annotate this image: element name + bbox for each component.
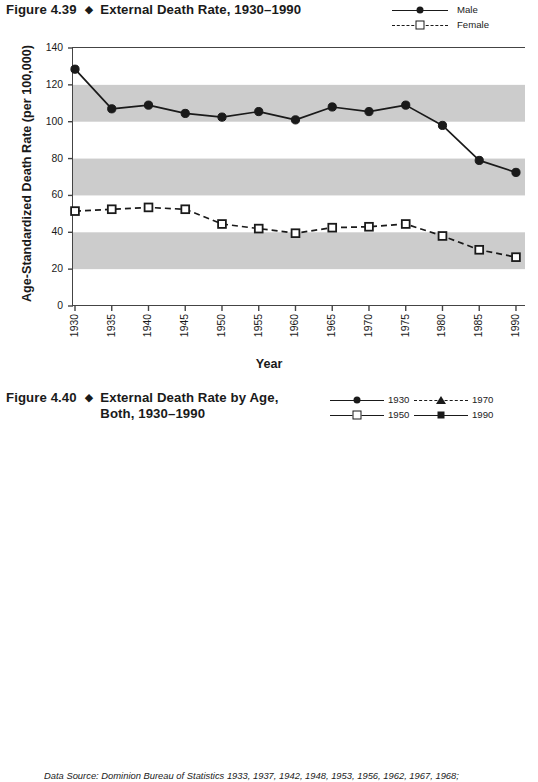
legend-key-solid-open-square	[330, 407, 384, 422]
figure-4-39: Figure 4.39External Death Rate, 1930–199…	[0, 0, 538, 385]
figure-title-line-1: External Death Rate by Age,	[100, 390, 278, 405]
x-axis-tick-label: 1930	[69, 314, 80, 337]
figure-4-39-plot-area	[72, 47, 525, 306]
figure-title-line-2: Both, 1930–1990	[100, 406, 278, 422]
x-axis-tick-label: 1960	[289, 314, 300, 337]
legend-label: 1950	[384, 409, 414, 420]
y-axis-tick-label: 140	[46, 42, 63, 53]
y-axis-tick-label: 40	[51, 226, 63, 237]
x-axis-tick-label: 1965	[326, 314, 337, 337]
figure-title-text: External Death Rate, 1930–1990	[100, 2, 301, 18]
figure-number: Figure 4.39	[6, 2, 77, 18]
x-axis-tick-label: 1990	[509, 314, 520, 337]
legend-item-male: Male	[392, 2, 489, 17]
figure-4-39-legend: Male Female	[392, 2, 489, 32]
legend-label: 1970	[468, 394, 498, 405]
figure-4-39-y-axis-title: Age-Standardized Death Rate (per 100,000…	[20, 45, 34, 302]
x-axis-tick-label: 1985	[473, 314, 484, 337]
figure-4-40: Figure 4.40External Death Rate by Age,Bo…	[0, 386, 538, 782]
y-axis-tick-label: 60	[51, 189, 63, 200]
figure-4-40-title: Figure 4.40External Death Rate by Age,Bo…	[6, 390, 278, 421]
y-axis-tick-label: 100	[46, 115, 63, 126]
legend-key-solid-filled-square	[414, 407, 468, 422]
x-axis-tick-label: 1935	[105, 314, 116, 337]
y-axis-tick-label: 120	[46, 78, 63, 89]
legend-key-solid-circle	[330, 392, 384, 407]
diamond-bullet-icon	[85, 389, 94, 406]
figure-4-39-series-layer	[73, 48, 525, 306]
legend-key-solid-circle	[392, 2, 448, 17]
x-axis-tick-label: 1975	[399, 314, 410, 337]
y-axis-tick-label: 0	[57, 300, 63, 311]
legend-key-dashed-open-square	[392, 17, 448, 32]
figure-4-40-legend: 1930 1970 1950 1990	[330, 392, 534, 422]
x-axis-tick-label: 1980	[436, 314, 447, 337]
x-axis-tick-label: 1955	[252, 314, 263, 337]
y-axis-tick-label: 20	[51, 263, 63, 274]
legend-label: 1930	[384, 394, 414, 405]
x-axis-tick-label: 1945	[179, 314, 190, 337]
diamond-bullet-icon	[85, 1, 94, 18]
legend-label: Female	[457, 19, 489, 30]
figure-title-text: External Death Rate by Age,Both, 1930–19…	[100, 390, 278, 421]
x-axis-tick-label: 1940	[142, 314, 153, 337]
legend-item-female: Female	[392, 17, 489, 32]
figure-4-39-x-axis-title: Year	[0, 357, 538, 371]
figure-number: Figure 4.40	[6, 390, 77, 406]
x-axis-tick-label: 1970	[362, 314, 373, 337]
x-axis-tick-label: 1950	[215, 314, 226, 337]
y-axis-tick-label: 80	[51, 152, 63, 163]
legend-label: 1990	[468, 409, 498, 420]
legend-label: Male	[457, 4, 478, 15]
legend-key-dashed-triangle	[414, 392, 468, 407]
figure-4-39-title: Figure 4.39External Death Rate, 1930–199…	[6, 2, 301, 19]
data-source-note: Data Source: Dominion Bureau of Statisti…	[44, 770, 538, 781]
